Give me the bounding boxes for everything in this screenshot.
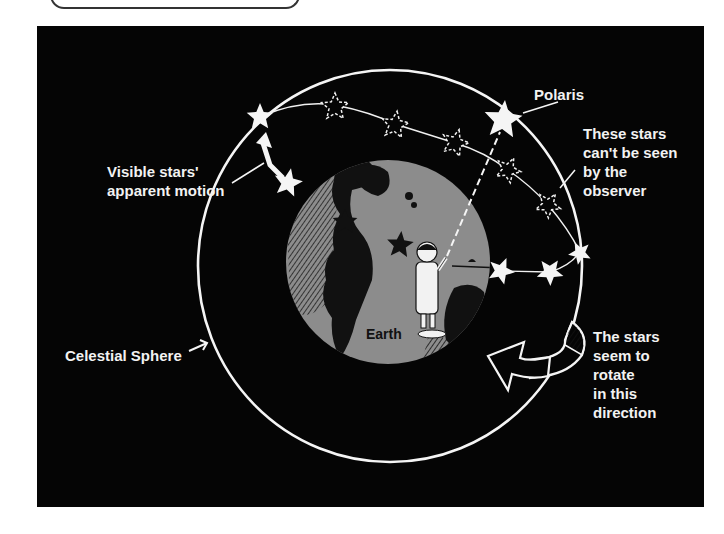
rotation-arrow-icon: [488, 322, 584, 390]
star-icon: [383, 111, 409, 137]
star-icon: [536, 194, 561, 218]
motion-leader: [232, 163, 264, 183]
celestial-diagram: [0, 0, 724, 534]
star-icon: [444, 130, 469, 157]
polaris-label: Polaris: [534, 85, 584, 104]
visible-motion-label: Visible stars' apparent motion: [107, 162, 225, 200]
earth-label: Earth: [366, 326, 402, 342]
motion-arrow: [256, 132, 283, 178]
star-icon: [497, 158, 521, 183]
star-icon: [322, 93, 349, 118]
star-icon: [537, 260, 564, 286]
celestial-sphere-label: Celestial Sphere: [65, 346, 182, 365]
star-icon: [247, 103, 274, 128]
star-icon: [489, 258, 515, 285]
polaris-star: [485, 100, 523, 137]
rotation-label: The stars seem to rotate in this directi…: [593, 327, 660, 422]
star-icon: [485, 100, 523, 137]
hidden-stars-label: These stars can't be seen by the observe…: [583, 124, 677, 200]
celestial-sphere-arrow: [189, 340, 207, 351]
